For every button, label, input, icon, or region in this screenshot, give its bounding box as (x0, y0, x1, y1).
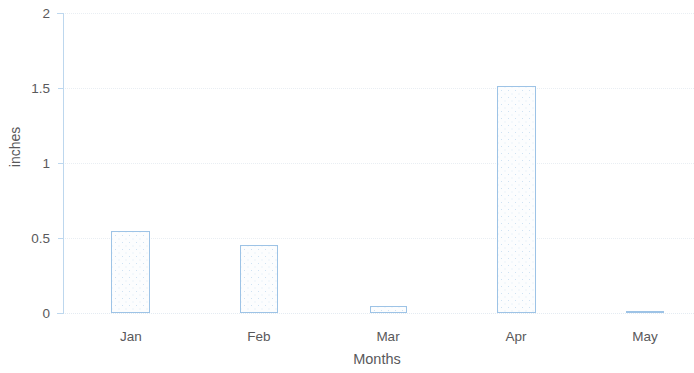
gridline-1_5 (63, 88, 694, 90)
y-tick-label-0: 0 (10, 307, 50, 321)
x-tick-label-apr: Apr (476, 330, 556, 344)
y-axis-cap-bottom (57, 313, 64, 314)
y-tick-label-0_5: 0.5 (10, 232, 50, 246)
bar-feb (240, 245, 278, 313)
y-axis-title: inches (8, 107, 22, 187)
bar-jan (111, 231, 150, 313)
x-axis-title-text: Months (293, 351, 401, 367)
bar-chart: 2 1.5 1 0.5 0 Jan Feb Mar Apr May Months… (0, 0, 694, 373)
gridline-0 (63, 313, 694, 315)
x-tick-label-mar: Mar (348, 330, 428, 344)
y-axis-cap-top (57, 13, 64, 14)
gridline-0_5 (63, 238, 694, 240)
gridline-2 (63, 13, 694, 15)
y-tick-mark-1 (58, 163, 64, 164)
bar-mar (370, 306, 407, 313)
y-tick-mark-1_5 (58, 88, 64, 89)
bar-may (626, 311, 664, 313)
x-axis-title: Months (0, 352, 694, 367)
y-axis-title-text: inches (7, 127, 23, 167)
x-tick-label-feb: Feb (219, 330, 299, 344)
y-tick-label-1_5: 1.5 (10, 82, 50, 96)
x-tick-label-may: May (605, 330, 685, 344)
y-tick-label-2: 2 (10, 7, 50, 21)
y-tick-mark-0_5 (58, 238, 64, 239)
plot-area (63, 13, 694, 313)
x-tick-label-jan: Jan (91, 330, 171, 344)
gridline-1 (63, 163, 694, 165)
bar-apr (497, 86, 536, 313)
